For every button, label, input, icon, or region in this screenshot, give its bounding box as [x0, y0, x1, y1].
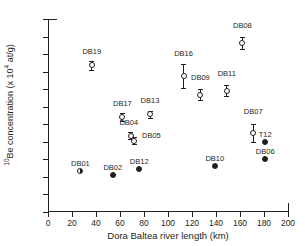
y-axis-title: 10Be concentration (x 104 at/g) — [5, 5, 15, 205]
x-axis-title: Dora Baltea river length (km) — [48, 230, 288, 241]
x-axis-tick — [120, 212, 121, 217]
plot-frame-right-cap — [288, 203, 289, 212]
error-bar-cap-lower — [181, 88, 186, 89]
x-axis-tick — [144, 212, 145, 217]
error-bar-cap-upper — [224, 85, 229, 86]
data-point-marker[interactable] — [136, 166, 142, 172]
y-axis-tick — [43, 19, 48, 20]
scatter-chart-figure: 00.511.522.533.544.555.5 020406080100120… — [0, 0, 305, 246]
x-axis-tick — [216, 212, 217, 217]
x-axis-tick — [264, 212, 265, 217]
x-axis-tick — [96, 212, 97, 217]
error-bar-cap-lower — [198, 100, 203, 101]
data-point-marker[interactable] — [77, 168, 83, 174]
error-bar-cap-lower — [251, 142, 256, 143]
x-axis-tick — [48, 212, 49, 217]
error-bar-cap-lower — [132, 144, 137, 145]
y-axis-tick — [43, 107, 48, 108]
data-point-label: T12 — [243, 131, 287, 139]
error-bar-cap-lower — [240, 49, 245, 50]
data-point-label: DB13 — [128, 97, 172, 105]
plot-frame-top-cap — [48, 19, 57, 20]
x-axis-tick — [192, 212, 193, 217]
x-axis-tick — [288, 212, 289, 217]
y-axis-tick — [43, 124, 48, 125]
data-point-label: DB06 — [243, 148, 287, 156]
y-axis-tick — [43, 37, 48, 38]
data-point-label: DB10 — [193, 155, 237, 163]
y-axis-tick — [43, 54, 48, 55]
data-point-marker[interactable] — [110, 172, 116, 178]
error-bar-cap-lower — [148, 118, 153, 119]
data-point-label: DB08 — [220, 22, 264, 30]
data-point-label: DB19 — [70, 48, 114, 56]
y-axis-tick — [43, 72, 48, 73]
y-axis-title-container: 10Be concentration (x 104 at/g) — [0, 0, 14, 212]
y-axis-tick — [43, 142, 48, 143]
data-point-label: DB04 — [107, 119, 151, 127]
data-point-marker[interactable] — [262, 139, 268, 145]
x-axis-tick — [168, 212, 169, 217]
data-point-marker[interactable] — [212, 163, 218, 169]
data-point-marker[interactable] — [224, 88, 230, 94]
x-axis-tick — [72, 212, 73, 217]
data-point-label: DB07 — [231, 108, 275, 116]
data-point-label: DB16 — [162, 50, 206, 58]
error-bar-cap-upper — [181, 64, 186, 65]
data-point-label: DB11 — [205, 70, 249, 78]
data-point-label: DB05 — [129, 132, 173, 140]
error-bar-cap-upper — [251, 124, 256, 125]
x-axis-tick-label: 200 — [268, 219, 305, 228]
error-bar-cap-lower — [224, 96, 229, 97]
y-axis-tick — [43, 159, 48, 160]
y-axis-tick — [43, 89, 48, 90]
error-bar-cap-upper — [240, 37, 245, 38]
error-bar-cap-lower — [89, 70, 94, 71]
error-bar-cap-upper — [198, 89, 203, 90]
x-axis-tick — [240, 212, 241, 217]
y-axis-tick — [43, 194, 48, 195]
y-axis-tick — [43, 177, 48, 178]
data-point-label: DB12 — [117, 158, 161, 166]
